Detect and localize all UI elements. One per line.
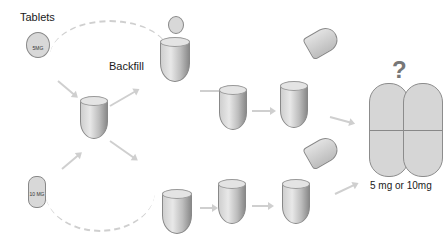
backfill-cup: [80, 99, 108, 139]
dose-label: 5 mg or 10mg: [370, 180, 432, 191]
cup-bottom-1: [162, 192, 192, 234]
tablets-label: Tablets: [20, 11, 55, 23]
question-mark: ?: [392, 56, 407, 84]
arrow-top-2: [252, 110, 272, 112]
tablet-5mg-character: 5MG: [26, 32, 50, 58]
cup-top-2: [219, 88, 247, 130]
dotted-path-bottom: [45, 150, 155, 232]
cup-top-1: [160, 40, 190, 82]
arrow-backfill-to-top: [110, 90, 137, 107]
arrow-top-to-result: [330, 116, 352, 124]
cup-bottom-3: [282, 182, 310, 224]
dotted-path-top: [50, 20, 170, 92]
arrow-bottom-2: [252, 205, 270, 207]
cap-bottom: [302, 134, 342, 171]
tablet-10mg-character: 10 MG: [28, 176, 46, 208]
capsule-right: [403, 83, 443, 177]
cup-bottom-2: [218, 182, 246, 224]
cup-top-3: [280, 84, 308, 128]
arrow-bottom-1: [200, 207, 214, 209]
tablet-falling-top: [168, 16, 184, 34]
arrow-bottom-to-result: [335, 184, 356, 195]
cap-top: [302, 24, 342, 61]
